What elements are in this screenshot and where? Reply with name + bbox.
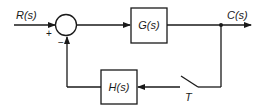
forward-block-label: G(s)	[138, 19, 160, 31]
sampler-label: T	[185, 91, 193, 103]
input-label: R(s)	[16, 9, 37, 21]
forward-block-g: G(s)	[131, 8, 167, 43]
block-diagram: R(s) + − G(s) C(s) T H(s)	[0, 0, 262, 109]
summing-junction	[56, 15, 77, 36]
feedback-block-label: H(s)	[109, 81, 130, 93]
minus-sign: −	[58, 37, 64, 48]
sampler-switch	[181, 76, 198, 87]
feedback-block-h: H(s)	[101, 70, 137, 104]
plus-sign: +	[46, 28, 52, 39]
output-label: C(s)	[227, 9, 248, 21]
